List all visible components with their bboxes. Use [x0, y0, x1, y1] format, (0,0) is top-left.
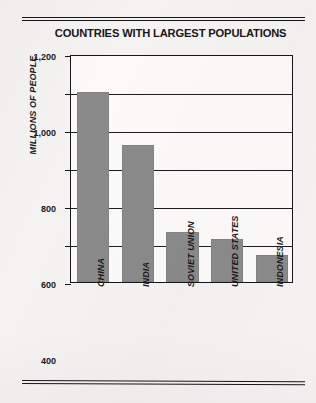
- plot-area: 02004006008001,0001,200: [70, 55, 293, 283]
- y-axis-title: MILLIONS OF PEOPLE: [28, 25, 38, 185]
- y-axis-tick-label: 1,200: [33, 52, 56, 62]
- x-axis-label: INDONESIA: [275, 236, 285, 287]
- x-axis-label: UNITED STATES: [230, 216, 240, 287]
- x-axis-label: INDIA: [141, 262, 151, 287]
- y-axis-tick-label: 800: [41, 204, 56, 214]
- y-axis-tick-label: 1,000: [33, 128, 56, 138]
- bar: [77, 92, 109, 282]
- y-axis-tick: 0: [65, 284, 71, 285]
- y-axis-tick-label: 600: [41, 280, 56, 290]
- x-axis-label: SOVIET UNION: [186, 221, 196, 287]
- chart-title: COUNTRIES WITH LARGEST POPULATIONS: [5, 27, 312, 39]
- top-double-rule: [22, 17, 305, 21]
- bottom-double-rule: [22, 380, 305, 385]
- x-axis-label: CHINA: [96, 258, 106, 287]
- y-axis-tick-label: 400: [41, 356, 56, 366]
- bars-group: [71, 56, 292, 282]
